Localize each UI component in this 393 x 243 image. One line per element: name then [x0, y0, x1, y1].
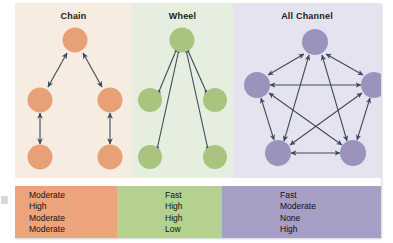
- panel-chain: Chain: [15, 3, 132, 178]
- small-group-networks-figure: Chain: [0, 0, 393, 243]
- chain-edge-top-midright: [83, 53, 102, 87]
- chain-node-top: [63, 28, 88, 53]
- ac-edge-3-5: [357, 98, 370, 140]
- chain-node-bottom-left: [28, 145, 53, 170]
- ac-node-top: [302, 29, 328, 55]
- criteria-column-all-channel: Fast Moderate None High: [222, 186, 381, 238]
- wheel-node-center: [170, 28, 195, 53]
- wheel-node-mid-right: [203, 88, 227, 112]
- criteria-column-wheel: Fast High High Low: [117, 186, 222, 238]
- chain-node-bottom-right: [98, 145, 123, 170]
- criteria-comparison-bar: Moderate High Moderate Moderate Fast Hig…: [15, 186, 381, 238]
- criteria-value-satisfaction: Moderate: [29, 224, 65, 235]
- ac-edge-3-4: [290, 93, 362, 145]
- panel-all-channel: All Channel: [233, 3, 381, 178]
- wheel-edge-midright-center: [189, 53, 205, 89]
- criteria-values-wheel: Fast High High Low: [165, 190, 182, 236]
- chain-edge-top-midleft: [48, 53, 67, 87]
- chain-network-graph: [15, 3, 132, 178]
- ac-node-left: [244, 72, 270, 98]
- network-diagrams: Chain: [15, 3, 381, 178]
- ac-node-bottom-right: [340, 140, 366, 166]
- wheel-node-bottom-right: [203, 145, 227, 169]
- ac-edge-2-5: [269, 93, 342, 145]
- criteria-value-leader: None: [280, 213, 316, 224]
- criteria-value-speed: Moderate: [29, 190, 65, 201]
- criteria-value-leader: Moderate: [29, 213, 65, 224]
- scan-margin-mark: [1, 196, 8, 204]
- criteria-value-satisfaction: High: [280, 224, 316, 235]
- chain-node-mid-right: [98, 88, 123, 113]
- criteria-value-speed: Fast: [280, 190, 316, 201]
- criteria-value-leader: High: [165, 213, 182, 224]
- panel-wheel: Wheel: [132, 3, 233, 178]
- ac-node-bottom-left: [265, 140, 291, 166]
- criteria-value-satisfaction: Low: [165, 224, 182, 235]
- ac-edge-2-4: [261, 98, 274, 140]
- wheel-network-graph: [132, 3, 233, 178]
- criteria-value-accuracy: High: [29, 201, 65, 212]
- ac-edge-1-4: [284, 55, 309, 141]
- wheel-edge-midleft-center: [160, 53, 175, 89]
- chain-node-mid-left: [28, 88, 53, 113]
- ac-edge-1-2: [268, 54, 304, 75]
- criteria-value-speed: Fast: [165, 190, 182, 201]
- criteria-values-all-channel: Fast Moderate None High: [280, 190, 316, 236]
- ac-edge-1-3: [326, 54, 363, 75]
- all-channel-network-graph: [233, 3, 381, 178]
- criteria-value-accuracy: High: [165, 201, 182, 212]
- ac-node-right: [361, 72, 381, 98]
- wheel-node-mid-left: [138, 88, 162, 112]
- criteria-values-chain: Moderate High Moderate Moderate: [29, 190, 65, 236]
- criteria-value-accuracy: Moderate: [280, 201, 316, 212]
- wheel-node-bottom-left: [138, 145, 162, 169]
- ac-edge-1-5: [322, 55, 347, 141]
- criteria-column-chain: Moderate High Moderate Moderate: [15, 186, 117, 238]
